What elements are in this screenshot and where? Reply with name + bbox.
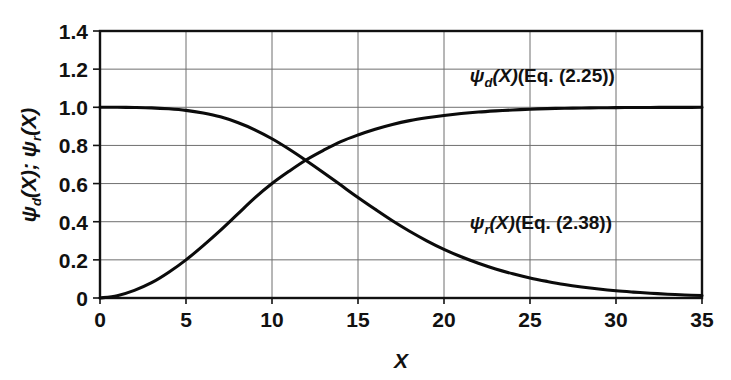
x-tick-label: 10 — [260, 308, 283, 331]
chart-figure: 00.20.40.60.81.01.21.4 05101520253035 ψd… — [0, 0, 731, 380]
y-tick-label: 1.0 — [59, 96, 88, 119]
y-axis-psi-d-symbol: ψ — [17, 206, 40, 222]
x-axis-title: X — [393, 349, 410, 372]
chart-svg: 00.20.40.60.81.01.21.4 05101520253035 ψd… — [0, 0, 731, 380]
y-tick-label: 1.4 — [59, 20, 89, 43]
y-tick-label: 1.2 — [59, 58, 88, 81]
y-axis-mid: (X); — [17, 157, 40, 198]
y-axis-end: (X) — [17, 108, 40, 136]
y-tick-label: 0 — [76, 287, 88, 310]
psi-d-argument: (X) — [492, 65, 517, 86]
x-tick-label: 35 — [690, 308, 714, 331]
psi-r-equation: (Eq. (2.38)) — [515, 212, 612, 233]
x-tick-label: 25 — [518, 308, 542, 331]
x-tick-label: 20 — [432, 308, 455, 331]
y-tick-label: 0.4 — [59, 211, 89, 234]
x-tick-label: 30 — [604, 308, 627, 331]
y-tick-label: 0.6 — [59, 173, 88, 196]
x-tick-label: 0 — [94, 308, 106, 331]
psi-r-symbol: ψ — [470, 212, 485, 233]
psi-d-equation: (Eq. (2.25)) — [518, 65, 615, 86]
x-tick-label: 5 — [180, 308, 192, 331]
x-tick-label: 15 — [346, 308, 370, 331]
y-tick-label: 0.8 — [59, 134, 89, 157]
y-tick-label: 0.2 — [59, 249, 88, 272]
y-axis-psi-r-symbol: ψ — [17, 141, 40, 157]
psi-r-argument: (X) — [490, 212, 515, 233]
psi-d-symbol: ψ — [470, 65, 485, 86]
